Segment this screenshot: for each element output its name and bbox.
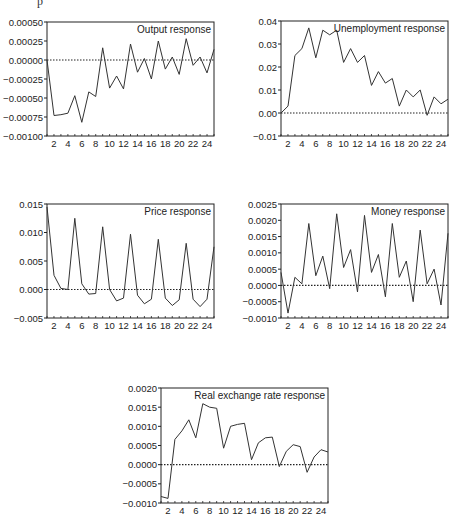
x-tick-label: 16 <box>260 505 271 516</box>
y-tick-label: 0.0015 <box>128 402 157 413</box>
x-tick-label: 20 <box>288 505 299 516</box>
y-tick-label: 0.0010 <box>128 421 157 432</box>
y-tick-label: −0.0005 <box>122 478 157 489</box>
x-tick-label: 22 <box>302 505 313 516</box>
x-tick-label: 14 <box>246 505 257 516</box>
x-tick-label: 18 <box>274 505 285 516</box>
x-tick-label: 6 <box>193 505 198 516</box>
x-tick-label: 24 <box>316 505 327 516</box>
y-tick-label: 0.0020 <box>128 383 157 394</box>
plot-frame <box>161 388 328 503</box>
x-tick-label: 8 <box>207 505 212 516</box>
x-tick-label: 2 <box>165 505 170 516</box>
y-tick-label: 0.0000 <box>128 459 157 470</box>
y-tick-label: 0.0005 <box>128 440 157 451</box>
x-tick-label: 4 <box>179 505 184 516</box>
chart-real-exchange-rate: −0.0010−0.00050.00000.00050.00100.00150.… <box>0 0 461 527</box>
x-tick-label: 10 <box>218 505 229 516</box>
y-tick-label: −0.0010 <box>122 498 157 509</box>
chart-title: Real exchange rate response <box>194 390 325 401</box>
x-tick-label: 12 <box>232 505 243 516</box>
response-line <box>161 404 328 499</box>
